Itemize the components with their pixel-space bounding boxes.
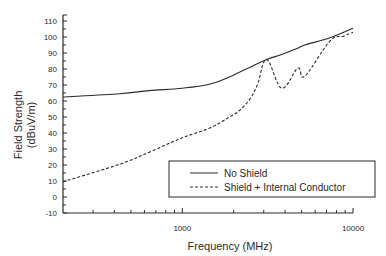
y-tick-label: 90 (48, 49, 57, 58)
y-tick-label: 0 (53, 193, 58, 202)
y-tick-label: 100 (44, 33, 58, 42)
y-axis: -100102030405060708090100110 (44, 15, 67, 218)
y-axis-title-line1: Field Strength (12, 91, 24, 159)
y-tick-label: 40 (48, 129, 57, 138)
y-tick-label: 20 (48, 161, 57, 170)
y-tick-label: 60 (48, 97, 57, 106)
series-no-shield (63, 28, 353, 97)
x-axis-title: Frequency (MHz) (188, 240, 273, 252)
field-strength-chart: -100102030405060708090100110 100010000 F… (0, 0, 386, 256)
legend-label-shield-internal-conductor: Shield + Internal Conductor (224, 182, 346, 193)
y-tick-label: 10 (48, 177, 57, 186)
x-tick-label: 10000 (342, 224, 365, 233)
y-tick-label: 50 (48, 113, 57, 122)
y-axis-title-line2: (dBuV/m) (25, 102, 37, 148)
x-axis: 100010000 (63, 208, 365, 233)
y-tick-label: -10 (45, 209, 57, 218)
x-tick-label: 1000 (173, 224, 191, 233)
y-tick-label: 30 (48, 145, 57, 154)
series-shield-internal-conductor (63, 32, 353, 182)
y-axis-title: Field Strength (dBuV/m) (12, 91, 37, 159)
legend: No Shield Shield + Internal Conductor (169, 161, 375, 197)
plot-area (63, 28, 353, 182)
y-tick-label: 110 (44, 17, 57, 26)
y-tick-label: 80 (48, 65, 57, 74)
y-tick-label: 70 (48, 81, 57, 90)
legend-label-no-shield: No Shield (224, 168, 267, 179)
